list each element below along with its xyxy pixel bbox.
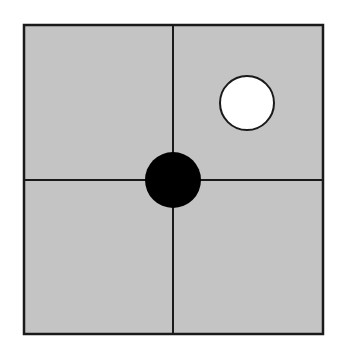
game-board[interactable] bbox=[0, 0, 341, 355]
black-stone[interactable] bbox=[145, 152, 201, 208]
white-stone[interactable] bbox=[220, 76, 274, 130]
